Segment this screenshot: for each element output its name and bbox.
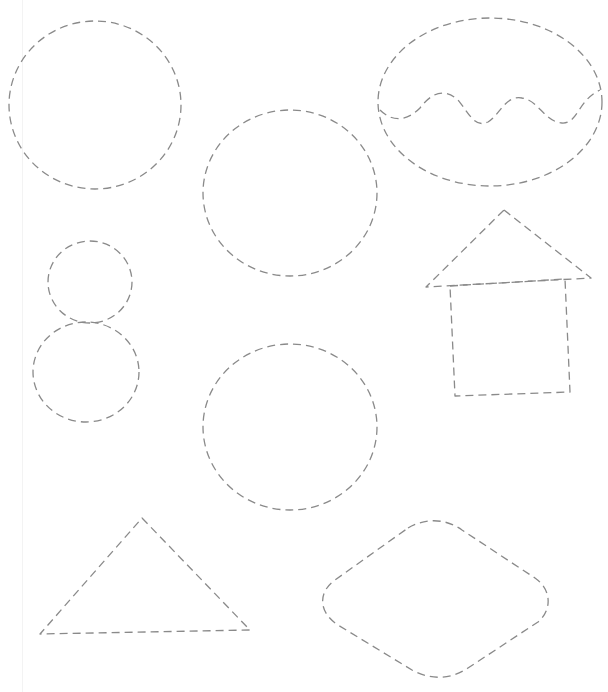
triangle-shape	[40, 518, 250, 634]
circle-center-bottom-shape	[203, 344, 377, 510]
circle-small-lower-shape	[33, 322, 139, 422]
worksheet-canvas	[0, 0, 608, 692]
rounded-rhombus-shape	[323, 521, 549, 678]
ellipse-with-wave-shape	[378, 18, 602, 186]
wave-line-shape	[380, 90, 600, 123]
circle-large-top-left-shape	[9, 21, 181, 189]
house-roof-shape	[426, 210, 591, 287]
circle-small-upper-shape	[48, 241, 132, 323]
house-body-shape	[450, 279, 570, 396]
circle-center-top-shape	[203, 110, 377, 276]
